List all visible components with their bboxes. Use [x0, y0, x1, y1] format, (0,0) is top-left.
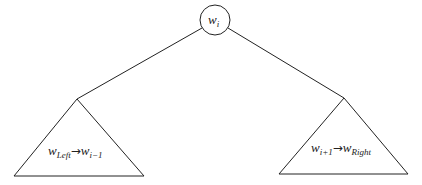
edge-root-left — [77, 28, 202, 99]
tree-diagram: wi wLeft→wi−1 wi+1→wRight — [0, 0, 422, 185]
edge-root-right — [228, 28, 344, 98]
left-subtree-label: wLeft→wi−1 — [48, 143, 103, 160]
right-subtree-label: wi+1→wRight — [311, 140, 371, 157]
root-node: wi — [200, 5, 230, 35]
left-subtree: wLeft→wi−1 — [14, 99, 144, 176]
right-subtree: wi+1→wRight — [279, 98, 408, 174]
tree-svg: wi wLeft→wi−1 wi+1→wRight — [0, 0, 422, 185]
